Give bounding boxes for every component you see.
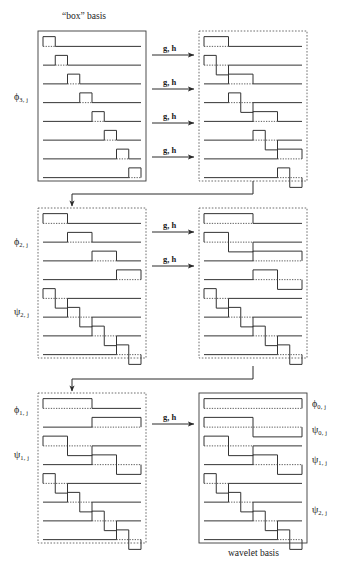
basis-function — [204, 492, 302, 512]
basis-function-curve — [204, 214, 302, 224]
label-psi-0j-right-subscript: 0, j — [318, 429, 327, 436]
basis-function — [204, 130, 302, 150]
basis-function-curve — [43, 492, 141, 512]
label-psi-0j-right: ψ0, j — [312, 425, 327, 437]
basis-function-curve — [204, 399, 302, 409]
basis-function-curve — [204, 289, 302, 309]
basis-function-curve — [43, 530, 141, 550]
panel-row3-left — [38, 393, 146, 549]
basis-function — [43, 474, 141, 494]
basis-function — [204, 74, 302, 84]
basis-function-curve — [204, 326, 302, 346]
panel-row1-right — [199, 31, 307, 187]
label-phi-0j-right-subscript: 0, j — [317, 403, 326, 410]
basis-function-curve — [43, 168, 141, 178]
feedback-1 — [72, 181, 253, 206]
label-phi-1j-subscript: 1, j — [19, 409, 28, 416]
basis-function-curve — [204, 530, 302, 550]
basis-function — [43, 417, 141, 427]
basis-function-curve — [43, 289, 141, 309]
basis-function — [43, 530, 141, 550]
feedback-2 — [72, 366, 253, 391]
label-phi-2j: ϕ2, j — [14, 237, 28, 249]
basis-function-curve — [43, 93, 141, 103]
label-phi-0j-right: ϕ0, j — [312, 399, 326, 411]
basis-function — [204, 93, 302, 113]
basis-function-curve — [43, 436, 141, 456]
basis-function-curve — [204, 74, 302, 84]
basis-function — [204, 251, 302, 261]
basis-function-curve — [43, 112, 141, 122]
basis-function-curve — [43, 232, 141, 242]
basis-function-curve — [204, 93, 302, 113]
label-phi-3j: ϕ3, j — [14, 92, 28, 104]
basis-function — [43, 214, 141, 224]
label-psi-2j-right-subscript: 2, j — [318, 509, 327, 516]
basis-function — [43, 326, 141, 346]
label-psi-1j-subscript: 1, j — [20, 454, 29, 461]
basis-function-curve — [43, 399, 141, 409]
basis-function — [204, 37, 302, 47]
basis-function-curve — [204, 511, 302, 531]
panel-row2-right — [199, 208, 307, 364]
basis-function-curve — [204, 251, 302, 261]
basis-function — [43, 511, 141, 531]
operator-label-gh-2: g, h — [163, 78, 176, 87]
basis-function-curve — [204, 345, 302, 365]
basis-function-curve — [43, 326, 141, 346]
operator-label-gh-1: g, h — [163, 44, 176, 53]
basis-function — [204, 55, 302, 75]
wavelet-decomposition-figure: “box” basis wavelet basis ϕ3, j ϕ2, j ψ2… — [0, 0, 341, 573]
panel-row1-left — [38, 31, 146, 181]
label-psi-1j: ψ1, j — [14, 450, 29, 462]
basis-function-curve — [204, 149, 302, 159]
basis-function — [204, 289, 302, 309]
basis-function — [204, 436, 302, 456]
basis-function — [43, 149, 141, 159]
basis-function — [43, 492, 141, 512]
label-psi-2j-subscript: 2, j — [20, 311, 29, 318]
basis-function — [43, 55, 141, 65]
basis-function-curve — [204, 232, 302, 252]
basis-function-curve — [43, 270, 141, 280]
basis-function — [204, 149, 302, 159]
operator-label-gh-4: g, h — [163, 146, 176, 155]
basis-function — [43, 93, 141, 103]
label-phi-2j-subscript: 2, j — [19, 241, 28, 248]
basis-function — [43, 251, 141, 261]
basis-function — [204, 511, 302, 531]
basis-function — [43, 74, 141, 84]
basis-function — [204, 455, 302, 475]
basis-function-curve — [43, 474, 141, 494]
basis-function — [204, 417, 302, 437]
basis-function-curve — [43, 37, 141, 47]
operator-label-gh-6: g, h — [163, 255, 176, 264]
basis-function — [204, 530, 302, 550]
basis-function — [43, 112, 141, 122]
basis-function — [204, 345, 302, 365]
basis-function-curve — [204, 37, 302, 47]
basis-function — [43, 232, 141, 242]
basis-function-curve — [43, 251, 141, 261]
operator-label-gh-5: g, h — [163, 221, 176, 230]
label-psi-2j-right: ψ2, j — [312, 505, 327, 517]
figure-title-box-basis: “box” basis — [62, 12, 106, 22]
basis-function — [204, 270, 302, 290]
basis-function — [43, 168, 141, 178]
basis-function — [204, 307, 302, 327]
basis-function-curve — [43, 345, 141, 365]
basis-function — [204, 214, 302, 224]
basis-function — [43, 345, 141, 365]
basis-function — [204, 474, 302, 494]
basis-function-curve — [43, 307, 141, 327]
basis-function-curve — [204, 492, 302, 512]
basis-function — [204, 399, 302, 409]
basis-function-curve — [204, 112, 302, 122]
basis-function — [43, 436, 141, 456]
label-phi-3j-subscript: 3, j — [19, 96, 28, 103]
basis-function — [43, 289, 141, 309]
basis-function — [43, 270, 141, 280]
basis-function-curve — [43, 511, 141, 531]
label-psi-1j-right: ψ1, j — [312, 455, 327, 467]
basis-function-curve — [43, 130, 141, 140]
